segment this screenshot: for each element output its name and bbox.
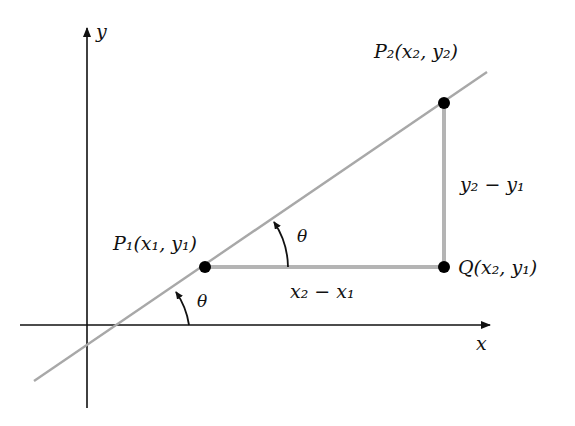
label-theta-axis: θ xyxy=(197,291,207,311)
label-p2: P₂(x₂, y₂) xyxy=(374,40,458,62)
label-run: x₂ − x₁ xyxy=(290,280,355,302)
diagram-canvas xyxy=(0,0,575,426)
angle-arc-axis xyxy=(176,292,189,325)
point-p2 xyxy=(438,97,450,109)
label-theta-p1: θ xyxy=(297,226,307,246)
sloped-line xyxy=(34,72,487,381)
point-p1 xyxy=(199,261,211,273)
label-rise: y₂ − y₁ xyxy=(460,173,525,195)
y-axis-label: y xyxy=(96,20,107,42)
point-q xyxy=(438,261,450,273)
label-q: Q(x₂, y₁) xyxy=(458,256,537,278)
label-p1: P₁(x₁, y₁) xyxy=(113,232,197,254)
angle-arc-p1 xyxy=(274,222,288,267)
x-axis-label: x xyxy=(476,332,487,354)
